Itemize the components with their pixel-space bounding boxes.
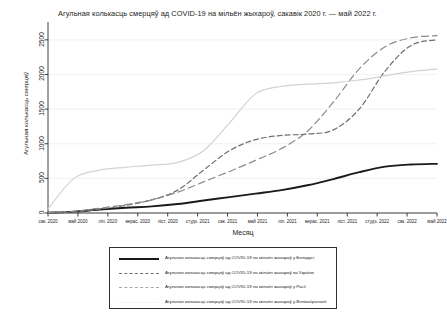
legend-item[interactable]: Агульная колькасць смерцяў ад COVID-19 н… <box>110 295 336 311</box>
y-tick-label: 500 <box>38 163 45 193</box>
series-line-1 <box>48 164 437 213</box>
x-axis-title: Месяц <box>48 229 438 236</box>
legend-swatch-faint <box>119 302 159 303</box>
x-tick-label: верас. 2020 <box>125 219 150 224</box>
chart-title: Агульная колькасць смерцяў ад COVID-19 н… <box>58 9 438 18</box>
x-tick-label: сак. 2021 <box>218 219 237 224</box>
x-tick-label: ліп. 2021 <box>278 219 297 224</box>
y-tick-label: 2500 <box>38 24 45 54</box>
x-tick-label: студз. 2021 <box>186 219 210 224</box>
legend-label: Агульная колькасць смерцяў ад COVID-19 н… <box>165 255 314 260</box>
legend-item[interactable]: Агульная колькасць смерцяў ад COVID-19 н… <box>110 266 336 282</box>
data-series-group <box>48 36 437 213</box>
chart-legend: Агульная колькасць смерцяў ад COVID-19 н… <box>109 247 337 309</box>
y-tick-label: 1500 <box>38 94 45 124</box>
legend-swatch-dashed <box>119 273 159 274</box>
y-tick-label: 1000 <box>38 128 45 158</box>
gridlines <box>48 40 437 213</box>
series-line-4 <box>48 69 437 209</box>
x-tick-label: сак. 2022 <box>397 219 416 224</box>
y-tick-label: 2000 <box>38 59 45 89</box>
x-tick-label: ліст. 2020 <box>158 219 178 224</box>
x-tick-label: май 2021 <box>248 219 267 224</box>
x-tick-label: ліп. 2020 <box>99 219 118 224</box>
x-tick-label: май 2022 <box>427 219 446 224</box>
legend-item[interactable]: Агульная колькасць смерцяў ад COVID-19 н… <box>110 280 336 296</box>
legend-label: Агульная колькасць смерцяў ад COVID-19 н… <box>165 299 326 304</box>
x-tick-label: студз. 2022 <box>365 219 389 224</box>
x-tick-label: верас. 2021 <box>305 219 330 224</box>
y-axis-title: Агульная колькасць смерцяў <box>22 44 29 184</box>
x-tick-label: сак. 2020 <box>38 219 57 224</box>
series-line-3 <box>48 36 437 213</box>
legend-label: Агульная колькасць смерцяў ад COVID-19 н… <box>165 284 306 289</box>
x-tick-label: май 2020 <box>68 219 87 224</box>
legend-swatch-longdash <box>119 287 159 288</box>
axis-lines <box>45 22 438 217</box>
legend-swatch-solid <box>119 258 159 260</box>
series-line-2 <box>48 40 437 213</box>
legend-item[interactable]: Агульная колькасць смерцяў ад COVID-19 н… <box>110 251 336 267</box>
legend-label: Агульная колькасць смерцяў ад COVID-19 н… <box>165 270 314 275</box>
x-tick-label: ліст. 2021 <box>337 219 357 224</box>
